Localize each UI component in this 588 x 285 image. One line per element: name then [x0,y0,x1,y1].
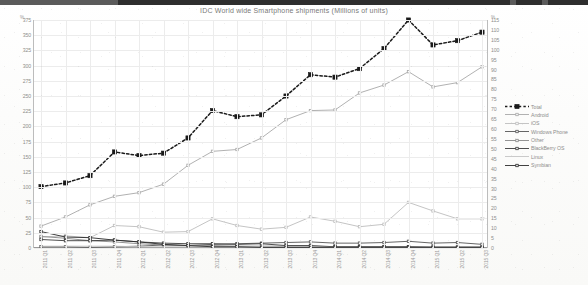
y-axis-tick-left: 150 [10,154,31,160]
gridline-vertical [41,20,42,248]
y-axis-tick-right: 65 [491,116,513,122]
chart-page: IDC World wide Smartphone shipments (Mil… [0,0,588,285]
legend-item-other[interactable]: Other [505,137,568,144]
gridline-horizontal [34,233,487,234]
y-axis-tick-left: 0 [10,245,31,251]
legend-label: Linux [531,154,543,160]
legend-label: Other [531,137,544,143]
gridline-vertical [286,20,287,248]
legend-item-android[interactable]: Android [505,111,568,118]
gridline-horizontal [34,157,487,158]
y-axis-tick-right: 0 [491,245,513,251]
legend-label: Total [531,104,542,110]
y-axis-tick-left: 225 [10,108,31,114]
y-axis-tick-left: 50 [10,215,31,221]
gridline-vertical [139,20,140,248]
gridline-vertical [237,20,238,248]
gridline-vertical [384,20,385,248]
x-axis-tick: 2012 Q3 [189,250,195,268]
gridline-horizontal [34,126,487,127]
gridline-vertical [164,20,165,248]
gridline-horizontal [34,218,487,219]
gridline-horizontal [34,50,487,51]
y-axis-tick-right: 105 [491,37,513,43]
gridline-horizontal [34,81,487,82]
x-axis-tick: 2013 Q1 [238,250,244,268]
y-axis-tick-right: 10 [491,225,513,231]
y-axis-tick-right: 55 [491,136,513,142]
y-axis-tick-right: 15 [491,215,513,221]
x-axis-tick: 2011 Q3 [91,250,97,268]
gridline-vertical [90,20,91,248]
y-axis-tick-left: 125 [10,169,31,175]
y-axis-tick-right: 25 [491,195,513,201]
legend: TotalAndroidiOSWindows PhoneOtherBlackBe… [505,103,568,169]
x-axis-tick: 2015 Q2 [459,250,465,268]
gridline-vertical [360,20,361,248]
y-axis-tick-right: 110 [491,27,513,33]
gridline-vertical [262,20,263,248]
y-axis-tick-right: 40 [491,166,513,172]
legend-item-symbian[interactable]: Symbian [505,162,568,169]
gridline-horizontal [34,187,487,188]
legend-item-total[interactable]: Total [505,103,568,110]
y-axis-tick-right: 75 [491,96,513,102]
x-axis-tick: 2014 Q3 [385,250,391,268]
y-axis-tick-left: 325 [10,47,31,53]
x-axis-tick: 2013 Q2 [263,250,269,268]
y-axis-tick-right: 100 [491,47,513,53]
gridline-horizontal [34,96,487,97]
legend-item-ios[interactable]: iOS [505,120,568,127]
gridline-horizontal [34,248,487,249]
y-axis-tick-right: 70 [491,106,513,112]
y-axis-tick-right: 90 [491,67,513,73]
gridline-vertical [335,20,336,248]
x-axis-tick: 2013 Q3 [287,250,293,268]
gridline-vertical [409,20,410,248]
x-axis-tick: 2014 Q1 [336,250,342,268]
y-axis-tick-left: 250 [10,93,31,99]
gridline-vertical [115,20,116,248]
legend-label: BlackBerry OS [531,145,564,151]
gridline-horizontal [34,111,487,112]
x-axis-tick: 2014 Q4 [410,250,416,268]
y-axis-tick-right: 5 [491,235,513,241]
legend-item-windows-phone[interactable]: Windows Phone [505,128,568,135]
legend-label: Android [531,112,549,118]
legend-item-blackberry-os[interactable]: BlackBerry OS [505,145,568,152]
x-axis-tick: 2015 Q1 [434,250,440,268]
y-axis-tick-right: 60 [491,126,513,132]
y-axis-tick-right: 30 [491,186,513,192]
y-axis-tick-right: 20 [491,205,513,211]
x-axis-tick: 2012 Q2 [165,250,171,268]
x-axis-tick: 2015 Q3 [483,250,489,268]
x-axis-tick: 2013 Q4 [312,250,318,268]
gridline-horizontal [34,35,487,36]
gridline-horizontal [34,172,487,173]
gridline-vertical [311,20,312,248]
gridline-horizontal [34,20,487,21]
gridline-vertical [188,20,189,248]
gridline-horizontal [34,202,487,203]
plot-area [33,20,488,248]
y-axis-tick-left: 75 [10,199,31,205]
x-axis-tick: 2014 Q2 [361,250,367,268]
y-axis-tick-left: 175 [10,139,31,145]
legend-item-linux[interactable]: Linux [505,153,568,160]
y-axis-tick-left: 375 [10,17,31,23]
gridline-vertical [213,20,214,248]
x-axis-tick: 2011 Q1 [42,250,48,268]
y-axis-tick-right: 115 [491,17,513,23]
y-axis-tick-right: 85 [491,76,513,82]
x-axis-tick: 2012 Q1 [140,250,146,268]
y-axis-tick-left: 350 [10,32,31,38]
gridline-vertical [433,20,434,248]
window-chrome-strip [0,0,588,5]
y-axis-tick-right: 50 [491,146,513,152]
chart-title: IDC World wide Smartphone shipments (Mil… [0,7,588,14]
gridline-horizontal [34,66,487,67]
y-axis-tick-left: 100 [10,184,31,190]
y-axis-tick-left: 200 [10,123,31,129]
gridline-horizontal [34,142,487,143]
y-axis-tick-right: 45 [491,156,513,162]
